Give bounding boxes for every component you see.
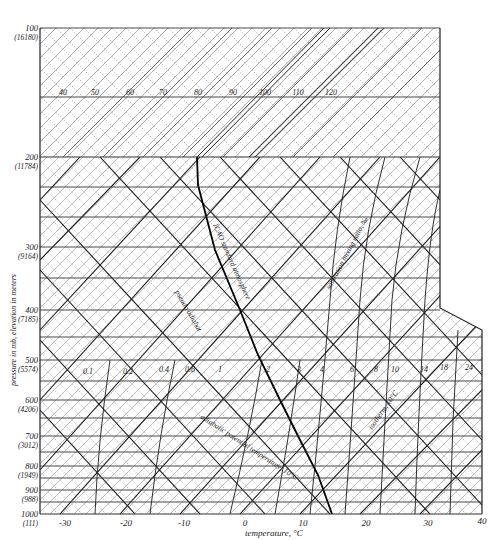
upper-region — [40, 20, 470, 180]
svg-text:(988): (988) — [22, 495, 39, 504]
svg-text:24: 24 — [465, 363, 473, 372]
svg-text:(4206): (4206) — [18, 405, 38, 414]
svg-text:60: 60 — [126, 88, 134, 97]
svg-text:10: 10 — [299, 518, 309, 528]
svg-text:-20: -20 — [120, 518, 132, 528]
svg-text:1: 1 — [218, 365, 222, 374]
svg-text:900: 900 — [25, 485, 39, 495]
svg-text:100: 100 — [259, 88, 271, 97]
svg-text:3: 3 — [296, 365, 301, 374]
svg-text:40: 40 — [478, 516, 488, 526]
svg-text:(16180): (16180) — [14, 33, 38, 42]
svg-text:100: 100 — [25, 23, 39, 33]
svg-text:2: 2 — [266, 365, 270, 374]
svg-text:(9164): (9164) — [18, 252, 38, 261]
svg-text:(111): (111) — [23, 519, 39, 528]
svg-text:0.1: 0.1 — [83, 367, 93, 376]
svg-text:50: 50 — [91, 88, 99, 97]
svg-text:500: 500 — [25, 355, 39, 365]
svg-text:0: 0 — [243, 518, 248, 528]
svg-text:600: 600 — [25, 395, 39, 405]
svg-text:10: 10 — [391, 365, 399, 374]
svg-text:300: 300 — [24, 242, 39, 252]
y-tick-elevation: (16180) — [14, 33, 38, 42]
y-axis-title: pressure in mb, elevation in meters — [9, 274, 18, 387]
svg-text:4: 4 — [320, 365, 324, 374]
svg-text:18: 18 — [440, 363, 448, 372]
svg-text:8: 8 — [374, 365, 378, 374]
svg-text:200: 200 — [25, 152, 39, 162]
svg-text:-10: -10 — [178, 518, 190, 528]
svg-text:30: 30 — [423, 518, 434, 528]
svg-text:70: 70 — [159, 88, 167, 97]
svg-text:6: 6 — [350, 365, 354, 374]
x-axis-title: temperature, °C — [245, 528, 304, 538]
svg-text:-30: -30 — [59, 518, 71, 528]
svg-text:(11784): (11784) — [15, 162, 39, 171]
svg-text:120: 120 — [325, 88, 337, 97]
svg-text:(7185): (7185) — [18, 315, 38, 324]
svg-text:(3012): (3012) — [18, 441, 38, 450]
svg-text:90: 90 — [229, 88, 237, 97]
svg-text:(1949): (1949) — [18, 471, 38, 480]
svg-text:80: 80 — [194, 88, 202, 97]
svg-text:700: 700 — [25, 431, 39, 441]
svg-text:800: 800 — [25, 461, 39, 471]
svg-text:40: 40 — [59, 88, 67, 97]
x-axis-labels: -30 -20 -10 0 10 20 30 40 — [59, 516, 487, 528]
svg-text:20: 20 — [362, 518, 372, 528]
svg-text:0.2: 0.2 — [123, 367, 133, 376]
y-tick-pressure: 100 — [25, 23, 39, 33]
svg-text:0.6: 0.6 — [185, 365, 195, 374]
svg-text:400: 400 — [25, 305, 39, 315]
lower-region — [40, 157, 482, 514]
svg-text:110: 110 — [292, 88, 303, 97]
svg-text:0.4: 0.4 — [159, 365, 169, 374]
svg-text:14: 14 — [420, 365, 428, 374]
thermodynamic-diagram: 100 (16180) 200 (11784) 300 (9164) 400 (… — [0, 0, 498, 540]
svg-text:1000: 1000 — [21, 509, 39, 519]
svg-text:(5574): (5574) — [18, 365, 38, 374]
